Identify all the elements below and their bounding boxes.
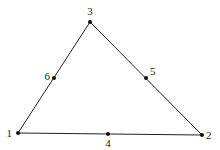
node-2-label: 2 (206, 129, 212, 141)
node-6-dot (52, 76, 56, 80)
node-1-label: 1 (7, 127, 13, 139)
node-3-dot (88, 20, 92, 24)
node-5-dot (144, 76, 148, 80)
node-4-dot (106, 132, 110, 136)
node-3-label: 3 (87, 5, 93, 17)
triangle-element-diagram: 123456 (0, 0, 220, 150)
node-6-label: 6 (45, 70, 51, 82)
node-4-label: 4 (105, 137, 111, 149)
node-1-dot (16, 131, 20, 135)
node-5-label: 5 (150, 65, 156, 77)
node-labels: 123456 (7, 5, 212, 149)
node-2-dot (200, 133, 204, 137)
